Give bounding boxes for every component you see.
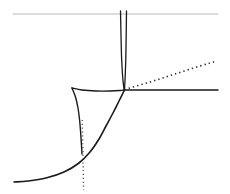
- chart-background: [0, 0, 230, 194]
- figure-container: [0, 0, 230, 194]
- chart-canvas: [0, 0, 230, 194]
